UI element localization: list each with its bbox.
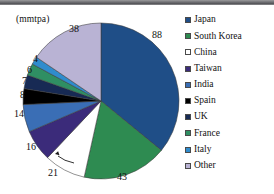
legend-label-other: Other	[194, 161, 216, 171]
legend-item-india[interactable]: India	[185, 77, 274, 93]
legend-swatch-china	[185, 49, 191, 55]
legend-label-france: France	[194, 129, 220, 139]
legend-swatch-japan	[185, 17, 191, 23]
legend-label-japan: Japan	[194, 15, 216, 25]
legend-label-uk: UK	[194, 112, 208, 122]
legend-label-spain: Spain	[194, 96, 216, 106]
legend-label-south-korea: South Korea	[194, 32, 242, 42]
legend-swatch-taiwan	[185, 66, 191, 72]
legend-swatch-uk	[185, 114, 191, 120]
legend-item-spain[interactable]: Spain	[185, 93, 274, 109]
legend-item-italy[interactable]: Italy	[185, 142, 274, 158]
legend-swatch-spain	[185, 98, 191, 104]
legend-swatch-south-korea	[185, 33, 191, 39]
legend-swatch-other	[185, 163, 191, 169]
legend-item-taiwan[interactable]: Taiwan	[185, 61, 274, 77]
legend-item-other[interactable]: Other	[185, 158, 274, 174]
pie-chart-area: (mmtpa) 88 43 21 16 14 8 7 6 4 38	[0, 5, 180, 194]
chart-legend: Japan South Korea China Taiwan India Spa…	[185, 12, 274, 174]
data-label-uk: 7	[22, 76, 27, 86]
pie-slices	[23, 23, 179, 179]
legend-swatch-france	[185, 130, 191, 136]
data-label-other: 38	[69, 24, 79, 34]
legend-label-china: China	[194, 48, 217, 58]
data-label-japan: 88	[152, 30, 162, 40]
data-label-spain: 8	[20, 90, 25, 100]
data-label-france: 6	[27, 65, 32, 75]
legend-label-taiwan: Taiwan	[194, 64, 222, 74]
legend-swatch-italy	[185, 147, 191, 153]
data-label-taiwan: 16	[26, 142, 36, 152]
legend-item-uk[interactable]: UK	[185, 109, 274, 125]
data-label-south-korea: 43	[117, 172, 127, 182]
legend-item-china[interactable]: China	[185, 44, 274, 60]
chart-screenshot: (mmtpa) 88 43 21 16 14 8 7 6 4 38 Japan …	[0, 0, 274, 194]
legend-item-south-korea[interactable]: South Korea	[185, 28, 274, 44]
data-label-india: 14	[14, 109, 24, 119]
legend-label-italy: Italy	[194, 145, 211, 155]
data-label-china: 21	[48, 168, 58, 178]
legend-item-japan[interactable]: Japan	[185, 12, 274, 28]
data-label-italy: 4	[33, 54, 38, 64]
legend-label-india: India	[194, 80, 214, 90]
legend-swatch-india	[185, 82, 191, 88]
legend-item-france[interactable]: France	[185, 125, 274, 141]
